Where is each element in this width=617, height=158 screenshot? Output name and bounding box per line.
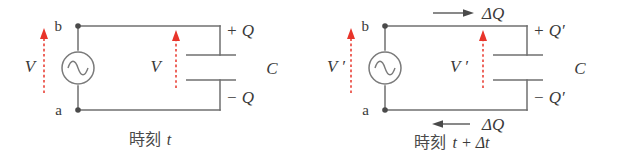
source-voltage-label: V ′ [327,57,345,76]
current-arrow-icon-top [433,9,474,16]
node-label-b: b [362,18,370,34]
plate-top-charge-label: + Q [226,21,254,40]
panel-caption-math: t [167,131,172,148]
panel-caption: 時刻t + Δt [414,133,490,152]
capacitor-icon [493,55,543,80]
right-panel: b a V ′ V ′ + Q′ − Q′ C [327,4,586,152]
ac-source-icon [369,52,401,84]
plate-top-charge-label: + Q′ [533,21,565,40]
current-arrow-icon-bottom [432,120,470,127]
plate-bottom-charge-label: − Q′ [533,88,565,107]
node-label-a: a [55,102,62,118]
left-panel: b a V V + Q − Q C [25,18,279,149]
capacitor-voltage-label: V ′ [450,57,468,76]
panel-caption-cjk: 時刻 [129,130,161,149]
capacitor-voltage-label: V [151,57,164,76]
capacitor-icon [186,55,236,80]
capacitance-label: C [266,59,278,78]
left-panel-wires [78,26,220,110]
panel-caption-cjk: 時刻 [414,133,446,152]
junction-dot-icon-top [382,23,388,29]
junction-dot-icon-bottom [382,107,388,113]
panel-caption-math: t + Δt [452,134,490,151]
voltage-arrow-icon-capacitor [172,30,180,88]
junction-dot-icon-top [75,23,81,29]
ac-source-icon [62,52,94,84]
circuit-diagram-svg: b a V V + Q − Q C [0,0,617,158]
node-label-b: b [55,18,63,34]
bottom-current-label: ΔQ [481,115,504,134]
voltage-arrow-icon-capacitor [479,30,487,88]
voltage-arrow-icon-source [40,28,48,93]
top-current-label: ΔQ [481,4,504,23]
circuit-figure: b a V V + Q − Q C [0,0,617,158]
capacitance-label: C [574,59,586,78]
panel-caption: 時刻t [129,130,172,149]
node-label-a: a [362,102,369,118]
voltage-arrow-icon-source [347,28,355,93]
junction-dot-icon-bottom [75,107,81,113]
plate-bottom-charge-label: − Q [226,88,254,107]
source-voltage-label: V [25,57,38,76]
